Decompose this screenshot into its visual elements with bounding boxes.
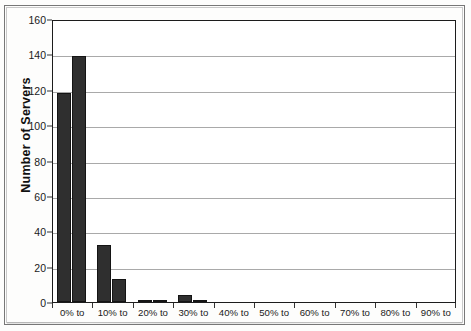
y-axis-tick-label: 140 [28, 49, 46, 61]
bar [138, 300, 152, 302]
bar [72, 56, 86, 302]
bar-group [376, 21, 416, 302]
x-axis-tick-label: 90% to [421, 307, 451, 318]
bar [112, 279, 126, 302]
y-axis-tick-labels: 020406080100120140160 [26, 20, 52, 303]
bar-group [53, 21, 93, 302]
y-axis-tick-label: 20 [34, 262, 46, 274]
y-axis-tick-label: 60 [34, 191, 46, 203]
plot-area [52, 20, 456, 303]
y-axis-tick-label: 40 [34, 226, 46, 238]
bar [57, 93, 71, 302]
bar-group [174, 21, 214, 302]
x-axis-tick-label: 30% to [178, 307, 208, 318]
y-axis-tick-label: 160 [28, 14, 46, 26]
bar [153, 300, 167, 302]
x-axis-tick-label: 10% to [98, 307, 128, 318]
scan-artifact [7, 322, 462, 324]
y-axis-tick-label: 100 [28, 120, 46, 132]
x-axis-tick-label: 60% to [300, 307, 330, 318]
bar-group [215, 21, 255, 302]
bar-group [295, 21, 335, 302]
bar-group [93, 21, 133, 302]
x-axis-tick-labels: 0% to10% to20% to30% to40% to50% to60% t… [52, 307, 456, 323]
bar-group [417, 21, 457, 302]
y-axis-tick-label: 80 [34, 156, 46, 168]
bar [193, 300, 207, 302]
bar [178, 295, 192, 302]
bar-group [336, 21, 376, 302]
y-axis-tick-label: 0 [40, 297, 46, 309]
bar-group [134, 21, 174, 302]
bars-layer [53, 21, 455, 302]
chart-figure: Number of Servers 020406080100120140160 … [0, 0, 471, 331]
bar-group [255, 21, 295, 302]
x-axis-tick-label: 40% to [219, 307, 249, 318]
bar [97, 245, 111, 302]
x-axis-tick-label: 20% to [138, 307, 168, 318]
x-axis-tick-label: 50% to [259, 307, 289, 318]
x-axis-tick-label: 80% to [380, 307, 410, 318]
y-axis-tick-label: 120 [28, 85, 46, 97]
x-axis-tick-label: 0% to [60, 307, 85, 318]
x-axis-tick-label: 70% to [340, 307, 370, 318]
